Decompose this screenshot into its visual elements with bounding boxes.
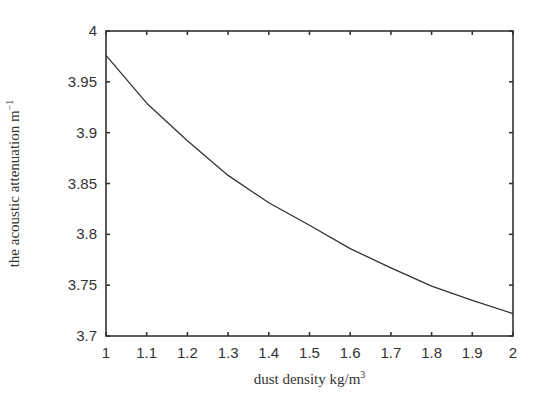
y-axis-label: the acoustic attenuation m−1 [4,100,22,268]
x-tick-label: 1.5 [299,344,320,361]
x-tick-label: 1.8 [421,344,442,361]
data-series [106,55,513,313]
x-tick-label: 1.6 [340,344,361,361]
y-tick-label: 3.8 [76,225,97,242]
x-tick-label: 1 [102,344,110,361]
x-tick-label: 2 [509,344,517,361]
y-tick-label: 3.9 [76,124,97,141]
x-tick-labels: 11.11.21.31.41.51.61.71.81.92 [102,344,517,361]
x-tick-label: 1.9 [462,344,483,361]
x-tick-label: 1.4 [258,344,279,361]
x-tick-label: 1.3 [218,344,239,361]
x-axis-label: dust density kg/m3 [254,369,366,387]
x-tick-label: 1.1 [136,344,157,361]
data-line [106,55,513,313]
plot-frame [106,31,513,336]
x-tick-label: 1.7 [380,344,401,361]
y-tick-label: 3.75 [68,276,97,293]
line-chart: 11.11.21.31.41.51.61.71.81.92 3.73.753.8… [0,0,539,413]
plot-border [106,31,513,336]
x-tick-label: 1.2 [177,344,198,361]
axis-ticks [106,31,513,336]
y-tick-labels: 3.73.753.83.853.93.954 [68,22,97,344]
y-tick-label: 3.95 [68,73,97,90]
y-tick-label: 4 [89,22,97,39]
y-tick-label: 3.85 [68,175,97,192]
y-tick-label: 3.7 [76,327,97,344]
